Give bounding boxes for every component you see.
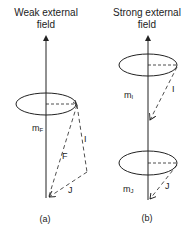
panel-b-caption: (b) (142, 213, 153, 223)
label-F: F (62, 151, 68, 161)
panel-a-title-line2: field (37, 19, 55, 30)
panel-a-caption: (a) (40, 214, 51, 224)
label-mI: mI (124, 90, 134, 100)
label-I: I (84, 134, 87, 144)
panel-b-title-line1: Strong external (113, 7, 181, 18)
label-J: J (165, 181, 170, 191)
panel-b-title-line2: field (138, 19, 156, 30)
vector-J (150, 165, 177, 199)
label-mF: mF (32, 123, 44, 133)
panel-a-title-line1: Weak external (14, 7, 78, 18)
panel-a: Weak external field mF I F J (a) (14, 7, 87, 224)
coupling-diagram: Weak external field mF I F J (a) Strong … (0, 0, 192, 233)
panel-b: Strong external field mI I mJ J (b) (113, 7, 181, 223)
label-I: I (172, 84, 175, 94)
label-J: J (68, 185, 73, 195)
label-mJ: mJ (123, 184, 134, 194)
